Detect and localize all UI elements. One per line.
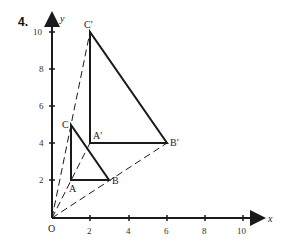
label-c-prime: C′ (84, 19, 93, 30)
y-axis-label: y (59, 13, 65, 24)
y-tick-6: 6 (39, 101, 44, 111)
y-tick-4: 4 (39, 138, 44, 148)
label-a: A (69, 183, 77, 194)
label-b-prime: B′ (170, 137, 179, 148)
origin-label: O (48, 223, 55, 234)
x-axis-label: x (267, 213, 273, 224)
y-tick-2: 2 (39, 175, 44, 185)
label-b: B (112, 175, 119, 186)
triangle-a-prime-b-prime-c-prime (90, 32, 167, 143)
y-tick-8: 8 (39, 64, 44, 74)
x-tick-6: 6 (164, 226, 169, 236)
x-tick-10: 10 (237, 226, 247, 236)
x-tick-4: 4 (126, 226, 131, 236)
label-c: C (62, 119, 69, 130)
y-tick-10: 10 (33, 27, 43, 37)
x-tick-2: 2 (87, 226, 92, 236)
problem-number: 4. (18, 15, 28, 29)
label-a-prime: A′ (93, 130, 102, 141)
enlargement-diagram: 4. y x O 2 4 6 8 10 2 4 6 8 10 A B C A′ … (0, 0, 285, 250)
x-tick-8: 8 (202, 226, 207, 236)
